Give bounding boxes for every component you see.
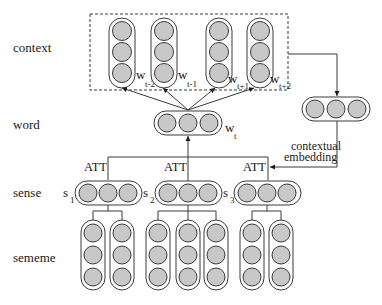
sememe-vector (204, 220, 228, 290)
row-label-context: context (13, 40, 52, 55)
context-vector-t+2: w t+2 (247, 18, 291, 91)
attention-connector (108, 136, 268, 181)
sense-sememe-connectors (93, 205, 281, 220)
svg-text:t+1: t+1 (237, 81, 249, 91)
target-word-vector: w t (154, 111, 237, 141)
svg-text:s: s (63, 185, 68, 200)
context-vector-t+1: w t+1 (206, 18, 249, 91)
context-vector-t-1: w t-1 (151, 18, 197, 89)
sememe-vector (110, 220, 134, 290)
svg-text:s: s (223, 185, 228, 200)
svg-text:2: 2 (150, 195, 155, 205)
sememe-group-s1 (81, 220, 134, 290)
sense-vector-s3: s 3 (223, 181, 301, 205)
sememe-vector (269, 220, 293, 290)
contextual-embedding-label-2: embedding (284, 150, 337, 164)
row-label-sememe: sememe (13, 250, 56, 265)
sememe-vector (176, 220, 200, 290)
svg-text:s: s (143, 185, 148, 200)
word-to-context-arrows (122, 88, 254, 110)
svg-text:t: t (234, 131, 237, 141)
svg-text:t-1: t-1 (187, 79, 197, 89)
contextual-embedding-vector (302, 97, 370, 121)
svg-text:1: 1 (70, 195, 75, 205)
sememe-vector (81, 220, 105, 290)
sememe-group-s2 (146, 220, 228, 290)
context-to-embedding-arrow (288, 54, 337, 96)
context-vector-t-2: w t-2 (109, 18, 155, 89)
svg-text:t+2: t+2 (279, 81, 291, 91)
row-label-word: word (13, 117, 40, 132)
att-label-s1: ATT (84, 160, 107, 174)
sememe-vector (146, 220, 170, 290)
att-label-s2: ATT (164, 160, 187, 174)
sememe-group-s3 (240, 220, 293, 290)
sense-vector-s2: s 2 (143, 181, 222, 205)
sememe-vector (240, 220, 264, 290)
sememe-attention-diagram: context word sense sememe w t-2 w t-1 w … (0, 0, 382, 305)
row-label-sense: sense (13, 185, 41, 200)
sense-vector-s1: s 1 (63, 181, 142, 205)
att-label-s3: ATT (243, 160, 266, 174)
